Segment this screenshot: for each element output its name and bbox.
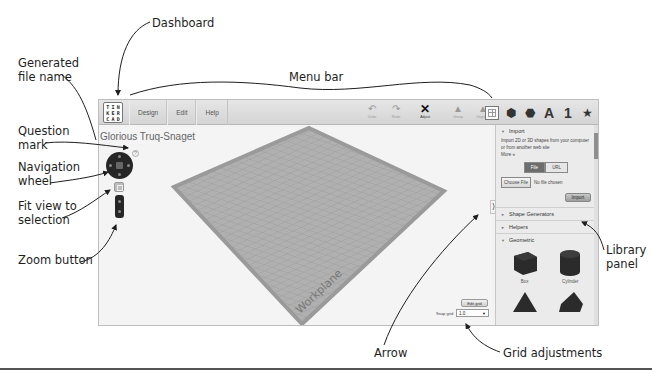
choose-file-button[interactable]: Choose File [501,177,531,188]
library-panel: ▼Import Import 2D or 3D shapes from your… [495,125,599,326]
fit-view-button[interactable] [114,182,124,192]
navigation-wheel[interactable] [106,152,133,179]
zoom-out-icon[interactable] [118,210,121,213]
callout-menu-bar: Menu bar [289,70,343,84]
collapsed-triangle-icon: ► [501,222,509,234]
callout-library-panel: Library panel [606,243,646,271]
geometric-header[interactable]: ▼Geometric [496,234,599,246]
star-icon[interactable]: ★ [580,106,594,120]
callout-dashboard: Dashboard [152,16,214,30]
group-button[interactable]: ▲ Group [447,103,469,123]
zoom-button[interactable] [115,195,124,218]
geometric-title: Geometric [509,237,534,243]
shape-roof[interactable] [548,290,594,312]
callout-line: Fit view to [18,199,77,213]
chevron-down-icon: ▼ [482,310,486,317]
helpers-header[interactable]: ►Helpers [496,221,599,233]
cylinder-icon [557,249,583,277]
callout-grid-adjustments: Grid adjustments [503,346,602,360]
adjust-button[interactable]: ✕ Adjust [414,103,436,123]
shape-cylinder[interactable]: Cylinder [548,249,594,284]
import-section: ▼Import Import 2D or 3D shapes from your… [496,125,599,208]
dashboard-logo-button[interactable]: T I N K E R C A D [103,102,123,123]
orbit-down-icon[interactable] [118,173,121,176]
snap-grid-select[interactable]: 1.0 ▼ [456,309,489,317]
undo-button[interactable]: ↶ Undo [361,103,383,123]
orbit-up-icon[interactable] [118,155,121,158]
redo-icon: ↷ [385,103,407,115]
callout-line: Navigation [18,160,80,174]
import-tab-url[interactable]: URL [545,162,568,173]
helpers-section: ►Helpers [496,221,599,234]
sphere-icon[interactable]: ⬣ [523,106,537,120]
menu-bar: T I N K E R C A D Design Edit Help ↶ Und… [99,100,598,125]
library-filter-icons: ⬢ ⬣ A 1 ★ [485,100,594,125]
callout-zoom-button: Zoom button [18,253,93,267]
home-view-icon[interactable] [116,162,123,169]
callout-navigation-wheel: Navigation wheel [18,160,80,188]
shape-generators-section: ►Shape Generators [496,208,599,221]
adjust-icon: ✕ [414,103,436,115]
import-title: Import [509,128,525,134]
menu-design[interactable]: Design [129,100,167,125]
callout-line: Question [18,124,69,138]
menu-help[interactable]: Help [196,100,227,125]
roof-icon [556,290,584,312]
collapse-library-arrow[interactable]: ⟩ [490,200,496,214]
scrollbar-thumb[interactable] [594,133,599,159]
redo-label: Redo [385,115,407,120]
number-icon[interactable]: 1 [561,106,575,120]
callout-line: mark [18,138,69,152]
import-source-toggle: File URL [501,162,591,173]
callout-line: panel [606,257,646,271]
shape-box[interactable]: Box [502,249,548,284]
snap-grid-value: 1.0 [459,311,465,316]
cube-icon[interactable]: ⬢ [504,106,518,120]
collapsed-triangle-icon: ► [501,209,509,221]
pyramid-icon [511,290,539,312]
workplane[interactable]: Workplane [99,125,492,326]
callout-fit-view: Fit view to selection [18,199,77,227]
group-label: Group [447,115,469,120]
no-file-chosen-text: No file chosen [534,179,563,186]
shape-pyramid[interactable] [502,290,548,312]
redo-button[interactable]: ↷ Redo [385,103,407,123]
callout-question-mark: Question mark [18,124,69,152]
import-description: Import 2D or 3D shapes from your compute… [501,137,591,151]
import-body: Import 2D or 3D shapes from your compute… [496,137,599,207]
shape-grid: Box Cylinder [496,246,599,315]
callout-line: selection [18,213,77,227]
file-picker: Choose File No file chosen [501,177,591,188]
callout-line: Generated [18,56,79,70]
adjust-label: Adjust [414,115,436,120]
import-tab-file[interactable]: File [524,162,545,173]
orbit-right-icon[interactable] [127,164,130,167]
workspace-viewport[interactable]: Workplane Glorious Truq-Snaget ? Edit gr… [99,125,492,326]
box-icon [510,249,540,277]
import-header[interactable]: ▼Import [496,125,599,137]
callout-line: wheel [18,174,80,188]
shape-generators-title: Shape Generators [509,211,554,217]
question-mark-icon[interactable]: ? [132,150,139,157]
library-scrollbar[interactable] [594,125,599,326]
import-more-link[interactable]: More » [501,151,591,158]
logo-letter: D [116,116,121,122]
grid-view-icon[interactable] [485,106,499,120]
group-icon: ▲ [447,103,469,115]
callout-line: Library [606,243,646,257]
letter-icon[interactable]: A [542,106,556,120]
zoom-in-icon[interactable] [118,200,121,203]
tinkercad-window: T I N K E R C A D Design Edit Help ↶ Und… [98,99,599,326]
shape-label: Box [521,279,529,284]
callout-arrow: Arrow [374,346,407,360]
geometric-section: ▼Geometric Box Cylinder [496,234,599,315]
menu-edit[interactable]: Edit [167,100,196,125]
edit-grid-button[interactable]: Edit grid [461,299,488,307]
callout-line: file name [18,70,79,84]
shape-generators-header[interactable]: ►Shape Generators [496,208,599,220]
main-menu: Design Edit Help [129,100,228,125]
orbit-left-icon[interactable] [109,164,112,167]
callout-generated-file-name: Generated file name [18,56,79,84]
import-button[interactable]: Import [565,193,591,202]
file-name[interactable]: Glorious Truq-Snaget [100,131,195,142]
